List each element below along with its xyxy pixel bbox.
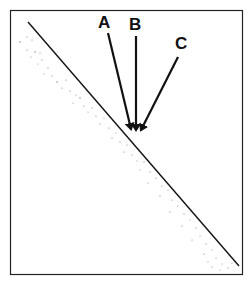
label-b: B [129,15,141,34]
label-a: A [98,13,110,32]
diagram: A B C [0,0,252,284]
frame-border [11,11,243,275]
label-c: C [175,34,187,53]
